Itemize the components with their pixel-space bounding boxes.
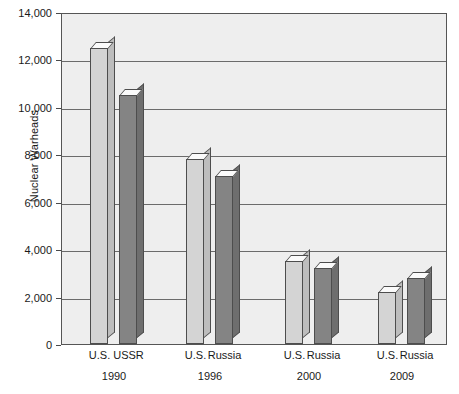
bar-1996-us	[186, 159, 204, 344]
x-series-label: USSR	[113, 349, 144, 361]
y-tick-label: 6,000	[24, 197, 52, 209]
bar-front-face	[314, 268, 332, 344]
bar-1990-ussr	[119, 95, 137, 344]
x-group-label-1996: 1996	[198, 370, 222, 382]
bar-front-face	[119, 95, 137, 344]
bar-2000-russia	[314, 268, 332, 344]
bar-side-face	[233, 164, 240, 338]
y-tick-label: 2,000	[24, 292, 52, 304]
y-tick-label: 10,000	[18, 102, 52, 114]
bar-front-face	[285, 261, 303, 344]
x-axis-labels: U.S.USSR1990U.S.Russia1996U.S.Russia2000…	[0, 349, 459, 394]
y-tick-label: 12,000	[18, 54, 52, 66]
x-series-label: Russia	[400, 349, 434, 361]
x-series-label: Russia	[208, 349, 242, 361]
x-series-label: U.S.	[89, 349, 110, 361]
x-group-label-2000: 2000	[297, 370, 321, 382]
bar-front-face	[407, 278, 425, 344]
y-tick-label: 8,000	[24, 149, 52, 161]
plot-area	[61, 13, 447, 345]
y-tick-label: 4,000	[24, 244, 52, 256]
y-tick-mark	[56, 345, 61, 346]
x-series-label: Russia	[307, 349, 341, 361]
bar-1996-russia	[215, 176, 233, 344]
bar-2000-us	[285, 261, 303, 344]
bar-1990-us	[90, 48, 108, 344]
bars-layer	[62, 14, 446, 344]
bar-front-face	[378, 292, 396, 344]
x-series-label: U.S.	[185, 349, 206, 361]
bar-front-face	[215, 176, 233, 344]
y-axis-tick-labels: 02,0004,0006,0008,00010,00012,00014,000	[0, 0, 58, 394]
y-tick-label: 14,000	[18, 7, 52, 19]
bar-side-face	[332, 256, 339, 338]
x-group-label-1990: 1990	[102, 370, 126, 382]
bar-side-face	[137, 83, 144, 338]
bar-2009-russia	[407, 278, 425, 344]
x-series-label: U.S.	[284, 349, 305, 361]
bar-side-face	[108, 36, 115, 338]
x-group-label-2009: 2009	[390, 370, 414, 382]
bar-2009-us	[378, 292, 396, 344]
nuclear-warheads-bar-chart: Nuclear Warheads 02,0004,0006,0008,00010…	[0, 0, 459, 394]
bar-front-face	[186, 159, 204, 344]
bar-side-face	[303, 249, 310, 338]
bar-front-face	[90, 48, 108, 344]
bar-side-face	[204, 147, 211, 338]
x-series-label: U.S.	[377, 349, 398, 361]
